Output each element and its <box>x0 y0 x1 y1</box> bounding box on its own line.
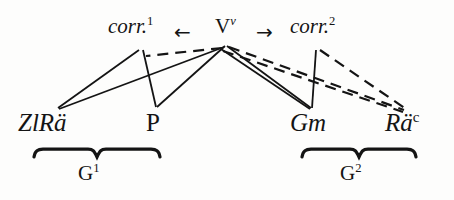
group-label-g2: G2 <box>340 163 361 184</box>
node-p-label: P <box>146 109 160 136</box>
group-label-g1-text: G <box>78 161 93 185</box>
group-brace-g1 <box>32 146 162 162</box>
group-brace-g2 <box>300 146 418 162</box>
node-rae-c-superscript: c <box>413 109 420 125</box>
node-corr1: corr.1 <box>108 16 153 37</box>
node-p: P <box>146 110 160 135</box>
brace-path <box>302 149 416 157</box>
node-v: Vv <box>215 16 236 37</box>
node-v-superscript: v <box>230 14 236 28</box>
edge-v-rae-a <box>229 47 404 110</box>
edge-v-p <box>157 46 225 107</box>
node-rae-c-label: Rä <box>385 109 413 136</box>
node-corr2: corr.2 <box>290 16 335 37</box>
edge-corr1-zlrae <box>58 50 139 108</box>
node-gm: Gm <box>290 110 326 135</box>
node-zlrae-label: ZlRä <box>18 109 67 136</box>
node-corr2-superscript: 2 <box>329 14 335 28</box>
node-zlrae: ZlRä <box>18 110 67 135</box>
node-corr1-superscript: 1 <box>147 14 153 28</box>
group-label-g2-superscript: 2 <box>355 161 361 175</box>
node-corr1-label: corr. <box>108 14 147 38</box>
edge-v-gm-b <box>221 49 310 109</box>
stemma-diagram: corr.1 Vv corr.2 ← → ZlRä P Gm Räc G1 G2 <box>0 0 454 200</box>
node-corr2-label: corr. <box>290 14 329 38</box>
left-arrow-icon: ← <box>174 22 191 42</box>
group-label-g1-superscript: 1 <box>93 161 99 175</box>
brace-path <box>34 149 160 157</box>
edge-corr2-rae <box>320 50 406 109</box>
node-rae-c: Räc <box>385 110 419 135</box>
edge-v-zlrae <box>59 47 224 109</box>
group-label-g1: G1 <box>78 163 99 184</box>
edge-corr1-p <box>143 50 156 107</box>
node-v-label: V <box>215 14 230 38</box>
group-label-g2-text: G <box>340 161 355 185</box>
right-arrow-icon: → <box>256 22 273 42</box>
node-gm-label: Gm <box>290 109 326 136</box>
